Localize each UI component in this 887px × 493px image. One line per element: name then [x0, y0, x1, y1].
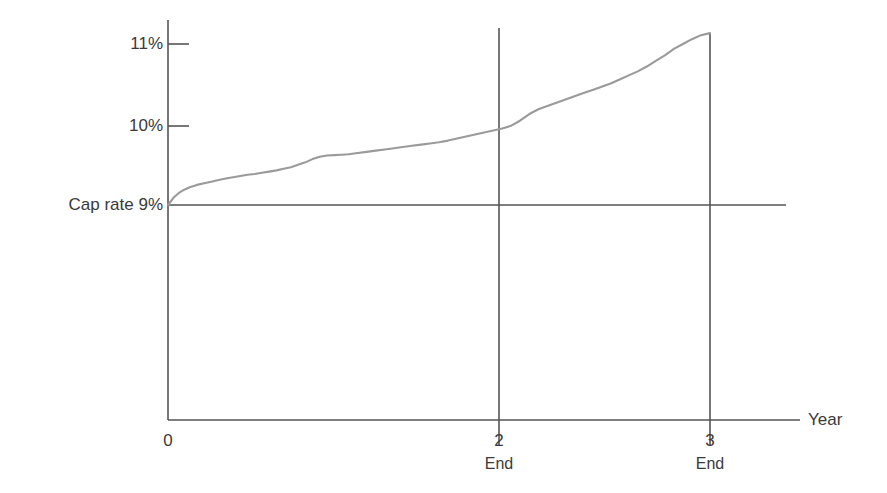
series-line-cumulative-yield [168, 33, 710, 205]
x-axis-tick-label-0: 0 [148, 432, 188, 449]
x-axis-tick-label-2: 2 [479, 432, 519, 449]
chart-canvas: 11% 10% Cap rate 9% 0 2 End 3 End Year [0, 0, 887, 493]
y-axis-tick-label-cap-rate-9-percent: Cap rate 9% [20, 196, 163, 213]
x-axis-tick-label-3: 3 [690, 432, 730, 449]
y-axis-tick-label-10-percent: 10% [103, 117, 163, 134]
y-axis-tick-label-11-percent: 11% [103, 35, 163, 52]
cap-rate-line-chart [0, 0, 887, 493]
x-axis-tick-sublabel-2-end: End [474, 456, 524, 472]
x-axis-tick-sublabel-3-end: End [685, 456, 735, 472]
x-axis-title: Year [808, 411, 878, 428]
